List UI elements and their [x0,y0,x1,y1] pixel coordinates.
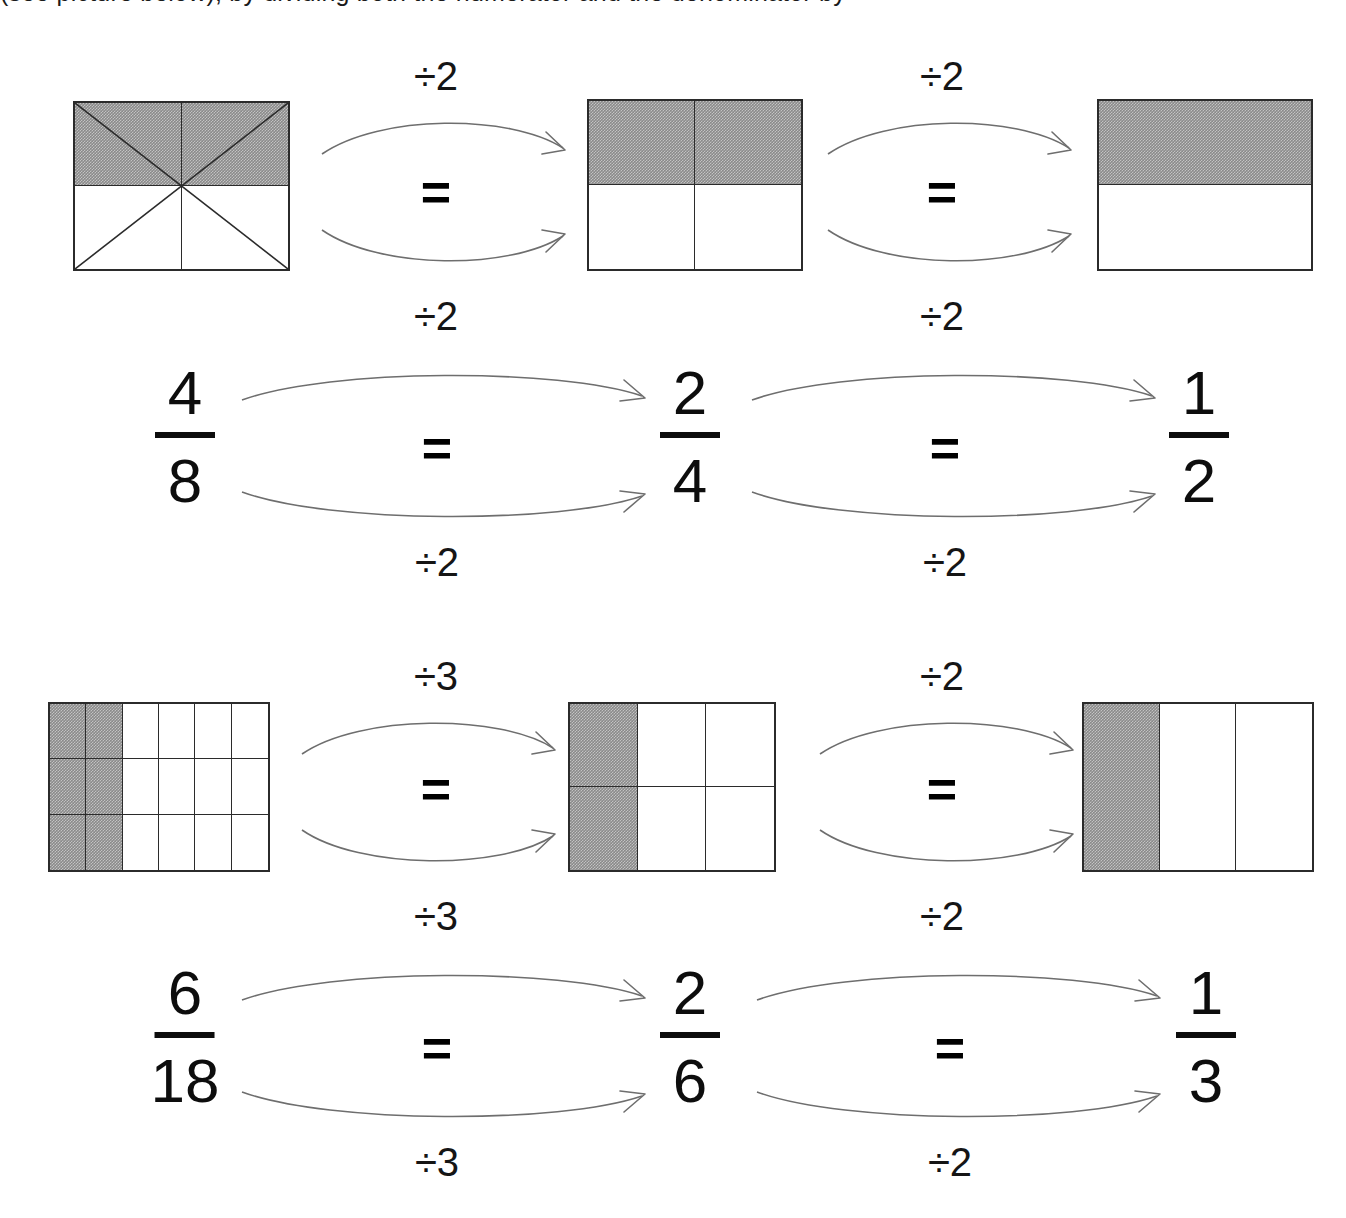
fraction-numerator: 2 [660,360,720,426]
fraction-2-4: 2 4 [660,360,720,514]
fraction-transition-4-equals: = [935,1022,965,1074]
shape-cell [232,759,268,814]
shape-transition-4-bottom-label: ÷2 [920,896,964,936]
fraction-transition-3-bottom-label: ÷3 [415,1142,459,1182]
shape-cell [50,704,86,759]
shape-cell [570,787,638,870]
fraction-bar [1176,1032,1236,1038]
shape-cell [706,704,774,787]
shape-cell [195,704,231,759]
shape-transition-3-top-label: ÷3 [414,656,458,696]
shape-transition-1-bottom-label: ÷2 [414,296,458,336]
shape-cell [1236,704,1312,870]
fraction-denominator: 8 [155,448,215,514]
shape-model-thirds [1082,702,1314,872]
fraction-transition-4-bottom-arrow [755,1082,1165,1124]
shape-model-halves [1097,99,1313,271]
shape-transition-2-bottom-arrow [826,212,1076,272]
shape-cell [195,759,231,814]
shape-cell [86,759,122,814]
shape-cell [182,103,289,186]
shape-transition-2-top-label: ÷2 [920,56,964,96]
fraction-numerator: 1 [1176,960,1236,1026]
shape-cell [123,759,159,814]
fraction-1-2: 1 2 [1169,360,1229,514]
shape-cell [232,815,268,870]
shape-transition-4-equals: = [927,763,957,815]
fraction-transition-1-bottom-arrow [240,482,650,524]
fraction-bar [155,432,215,438]
shape-cell [695,185,801,269]
shape-cell [589,185,695,269]
fraction-denominator: 2 [1169,448,1229,514]
shape-cell [232,704,268,759]
fraction-numerator: 1 [1169,360,1229,426]
shape-transition-2-bottom-label: ÷2 [920,296,964,336]
fraction-bar [660,1032,720,1038]
fraction-numerator: 6 [151,960,220,1026]
fraction-4-8: 4 8 [155,360,215,514]
fraction-denominator: 6 [660,1048,720,1114]
fraction-transition-2-top-arrow [750,368,1160,410]
fraction-transition-1-equals: = [422,422,452,474]
fraction-denominator: 4 [660,448,720,514]
fraction-denominator: 18 [151,1048,220,1114]
shape-transition-1-bottom-arrow [320,212,570,272]
fraction-transition-1-top-arrow [240,368,650,410]
shape-transition-3-equals: = [421,763,451,815]
shape-transition-3-bottom-label: ÷3 [414,896,458,936]
fraction-numerator: 2 [660,960,720,1026]
fraction-6-18: 6 18 [151,960,220,1114]
clipped-header-text: (see picture below), by dividing both th… [0,0,1346,8]
shape-model-eighths [73,101,290,271]
shape-model-sixths [568,702,776,872]
shape-cell [75,186,182,269]
shape-cell [1084,704,1160,870]
fraction-transition-3-bottom-arrow [240,1082,650,1124]
shape-cell [638,787,706,870]
shape-cell [638,704,706,787]
shape-model-fourths [587,99,803,271]
fraction-denominator: 3 [1176,1048,1236,1114]
fraction-transition-3-equals: = [422,1022,452,1074]
fraction-bar [1169,432,1229,438]
shape-model-eighteenths [48,702,270,872]
shape-cell [589,101,695,185]
fraction-2-6: 2 6 [660,960,720,1114]
fraction-transition-2-bottom-label: ÷2 [923,542,967,582]
shape-cell [123,704,159,759]
shape-cell [50,815,86,870]
shape-cell [86,815,122,870]
shape-cell [1099,101,1311,185]
fraction-transition-4-bottom-label: ÷2 [928,1142,972,1182]
shape-transition-3-bottom-arrow [300,812,560,872]
fraction-bar [660,432,720,438]
shape-cell [159,759,195,814]
shape-transition-2-equals: = [927,166,957,218]
shape-cell [1099,185,1311,269]
fraction-numerator: 4 [155,360,215,426]
shape-cell [159,815,195,870]
fraction-1-3: 1 3 [1176,960,1236,1114]
fraction-transition-3-top-arrow [240,968,650,1010]
shape-cell [195,815,231,870]
fraction-transition-4-top-arrow [755,968,1165,1010]
shape-cell [86,704,122,759]
fraction-bar [155,1032,215,1038]
fraction-transition-2-equals: = [930,422,960,474]
shape-transition-1-top-label: ÷2 [414,56,458,96]
shape-cell [182,186,289,269]
shape-cell [695,101,801,185]
shape-cell [706,787,774,870]
fraction-transition-2-bottom-arrow [750,482,1160,524]
shape-cell [570,704,638,787]
shape-cell [75,103,182,186]
shape-transition-4-bottom-arrow [818,812,1078,872]
shape-cell [123,815,159,870]
shape-cell [50,759,86,814]
fraction-equivalence-worksheet: (see picture below), by dividing both th… [0,0,1346,1218]
fraction-transition-1-bottom-label: ÷2 [415,542,459,582]
shape-transition-4-top-label: ÷2 [920,656,964,696]
shape-cell [159,704,195,759]
shape-cell [1160,704,1236,870]
